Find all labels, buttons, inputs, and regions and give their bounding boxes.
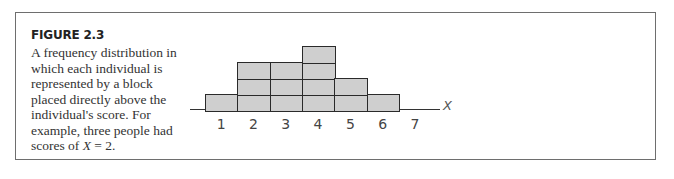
frequency-block	[302, 94, 336, 112]
frequency-block	[237, 94, 271, 112]
frequency-block	[302, 62, 336, 80]
frequency-block	[205, 94, 239, 112]
x-tick-label: 7	[405, 116, 425, 132]
frequency-block	[302, 78, 336, 96]
frequency-block	[237, 62, 271, 80]
x-axis-label: X	[443, 98, 452, 113]
frequency-block-chart: X 1234567	[0, 0, 674, 179]
x-tick-label: 6	[373, 116, 393, 132]
x-tick-label: 4	[308, 116, 328, 132]
x-tick-label: 3	[276, 116, 296, 132]
x-tick-label: 2	[243, 116, 263, 132]
frequency-block	[270, 78, 304, 96]
frequency-block	[334, 78, 368, 96]
frequency-block	[302, 46, 336, 64]
frequency-block	[334, 94, 368, 112]
x-tick-label: 5	[340, 116, 360, 132]
frequency-block	[367, 94, 401, 112]
x-tick-label: 1	[211, 116, 231, 132]
frequency-block	[270, 94, 304, 112]
frequency-block	[270, 62, 304, 80]
frequency-block	[237, 78, 271, 96]
